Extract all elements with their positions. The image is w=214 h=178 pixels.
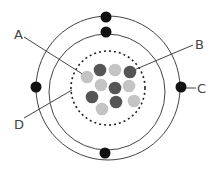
electron (176, 82, 187, 93)
proton-particle (124, 66, 137, 79)
electrons (31, 12, 187, 159)
proton-particle (110, 96, 123, 109)
label-c: C (197, 82, 206, 95)
electron (100, 148, 111, 159)
neutron-particle (109, 64, 122, 77)
label-a: A (14, 28, 23, 41)
neutron-particle (96, 103, 109, 116)
electron (31, 82, 42, 93)
neutron-particle (81, 71, 94, 84)
outer-orbit (36, 16, 180, 160)
label-b: B (195, 38, 204, 51)
leader-line-d (24, 90, 72, 118)
nucleus (81, 64, 141, 116)
leader-line-b (134, 45, 193, 70)
proton-particle (86, 91, 99, 104)
electron (101, 12, 112, 23)
label-d: D (14, 118, 24, 131)
neutron-particle (95, 79, 108, 92)
atom-diagram (0, 0, 214, 178)
neutron-particle (123, 80, 136, 93)
electron (101, 27, 112, 38)
proton-particle (109, 82, 122, 95)
neutron-particle (128, 95, 141, 108)
proton-particle (94, 64, 107, 77)
inner-orbit (49, 34, 165, 150)
